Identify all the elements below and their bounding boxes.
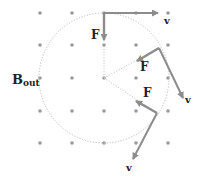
force-vector: F	[137, 48, 159, 74]
field-dot-icon	[102, 109, 106, 113]
field-dot-icon	[38, 43, 42, 47]
vectors: vFvFvF	[91, 13, 192, 173]
velocity-vector: v	[125, 113, 157, 173]
field-dot-icon	[70, 11, 74, 15]
field-dot-icon	[166, 43, 170, 47]
field-dot-icon	[134, 109, 138, 113]
velocity-label: v	[125, 162, 133, 173]
arrow-icon	[136, 101, 157, 113]
diagram-canvas: vFvFvF Bout	[0, 0, 203, 179]
field-label-main: B	[12, 72, 23, 87]
velocity-vector: v	[159, 48, 192, 105]
field-dot-icon	[70, 76, 74, 80]
velocity-vector: v	[104, 13, 171, 26]
force-vector: F	[91, 13, 104, 42]
velocity-label: v	[184, 94, 192, 105]
force-label: F	[140, 60, 149, 74]
field-dot-icon	[38, 11, 42, 15]
field-dot-icon	[134, 43, 138, 47]
field-dot-icon	[70, 43, 74, 47]
force-vector: F	[136, 86, 157, 113]
field-dot-icon	[38, 109, 42, 113]
force-label: F	[91, 28, 100, 42]
field-dot-icon	[38, 141, 42, 145]
field-dot-icon	[166, 109, 170, 113]
field-label-sub: out	[23, 78, 41, 88]
field-label: Bout	[12, 72, 41, 88]
arrow-icon	[133, 113, 157, 159]
field-dot-icon	[70, 109, 74, 113]
arrow-icon	[159, 48, 183, 98]
velocity-label: v	[163, 15, 171, 26]
field-dot-icon	[134, 76, 138, 80]
field-dot-icon	[166, 141, 170, 145]
force-velocity-diagram: vFvFvF Bout	[0, 0, 203, 179]
force-label: F	[143, 86, 152, 100]
field-dot-icon	[70, 141, 74, 145]
field-dot-icon	[134, 141, 138, 145]
